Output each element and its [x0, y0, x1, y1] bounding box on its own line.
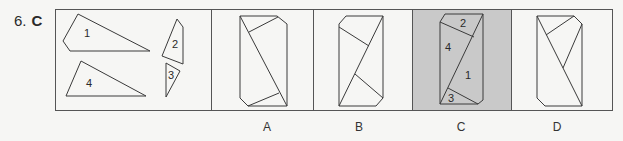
option-a-figure[interactable] [240, 16, 287, 106]
piece-1 [63, 14, 150, 51]
answer-frame [56, 10, 613, 111]
option-label-c[interactable]: C [451, 120, 471, 134]
piece-label-4: 4 [86, 77, 92, 89]
option-label-a[interactable]: A [257, 120, 277, 134]
pieces-panel [63, 14, 183, 97]
piece-label-1: 1 [84, 27, 90, 39]
option-label-d[interactable]: D [547, 120, 567, 134]
option-c-piece-label: 1 [465, 69, 471, 81]
puzzle-figure [0, 0, 623, 141]
option-c-piece-label: 3 [448, 92, 454, 104]
option-b-figure[interactable] [339, 16, 383, 106]
piece-label-2: 2 [172, 38, 178, 50]
option-c-piece-label: 2 [460, 17, 466, 29]
option-label-b[interactable]: B [349, 120, 369, 134]
piece-4 [66, 61, 146, 96]
option-d-figure[interactable] [537, 16, 582, 106]
option-c-piece-label: 4 [445, 41, 451, 53]
piece-label-3: 3 [168, 69, 174, 81]
